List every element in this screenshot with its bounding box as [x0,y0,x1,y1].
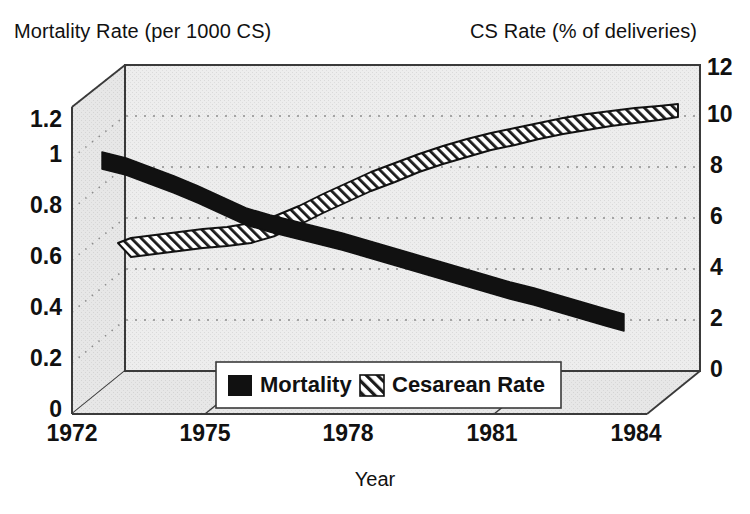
plot-left-wall [72,65,125,414]
legend-label-cesarean: Cesarean Rate [392,374,545,396]
right-tick-2: 4 [710,256,723,279]
legend-label-mortality: Mortality [260,374,352,396]
left-tick-2: 0.4 [0,296,62,319]
left-tick-0: 0 [0,398,62,421]
legend-swatch-cesarean [360,375,384,396]
right-tick-3: 6 [710,205,723,228]
left-tick-5: 1 [0,143,62,166]
x-tick-1978: 1978 [290,422,406,445]
x-tick-1975: 1975 [147,422,263,445]
legend-swatch-mortality [228,375,252,396]
left-tick-3: 0.6 [0,245,62,268]
right-tick-6: 12 [707,56,733,79]
left-tick-6: 1.2 [0,108,62,131]
right-tick-1: 2 [710,307,723,330]
x-tick-1972: 1972 [14,422,130,445]
left-tick-4: 0.8 [0,194,62,217]
right-tick-0: 0 [710,358,723,381]
right-tick-5: 10 [707,103,733,126]
left-tick-1: 0.2 [0,347,62,370]
x-axis-title: Year [0,468,750,491]
chart-figure: Mortality Rate (per 1000 CS) CS Rate (% … [0,0,750,514]
x-tick-1981: 1981 [434,422,550,445]
right-tick-4: 8 [710,154,723,177]
x-tick-1984: 1984 [578,422,694,445]
